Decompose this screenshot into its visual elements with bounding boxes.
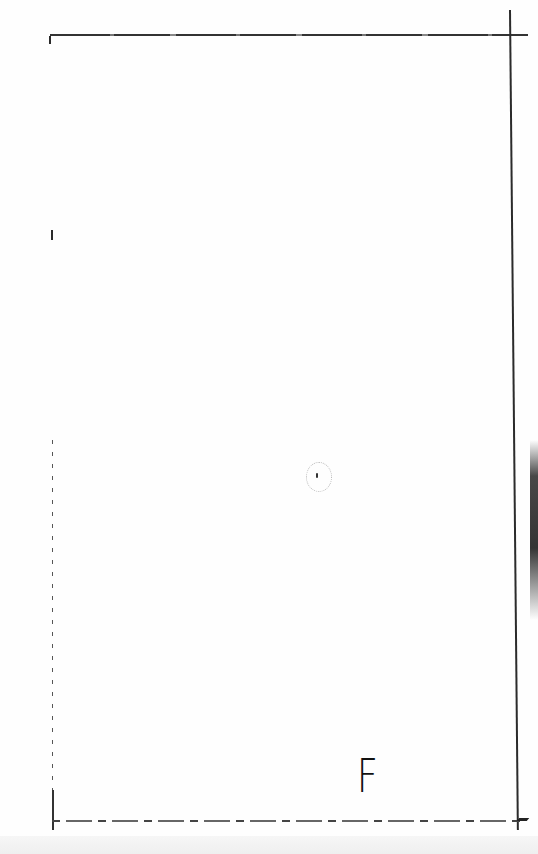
handwritten-letter: F xyxy=(357,753,378,799)
left-border-line xyxy=(52,440,53,820)
bottom-border-line xyxy=(52,820,522,822)
smudge-dot xyxy=(316,473,318,478)
scanner-bottom-edge xyxy=(0,836,538,854)
smudge-mark xyxy=(306,462,332,492)
left-margin-tick xyxy=(51,230,53,240)
right-border-line xyxy=(509,10,519,830)
left-border-lower-segment xyxy=(52,790,54,830)
page-edge-shadow xyxy=(530,440,538,620)
scanned-page: F xyxy=(0,0,538,854)
top-left-corner-mark xyxy=(49,36,51,44)
bottom-right-corner-mark xyxy=(517,818,530,821)
top-border-line xyxy=(50,34,528,36)
